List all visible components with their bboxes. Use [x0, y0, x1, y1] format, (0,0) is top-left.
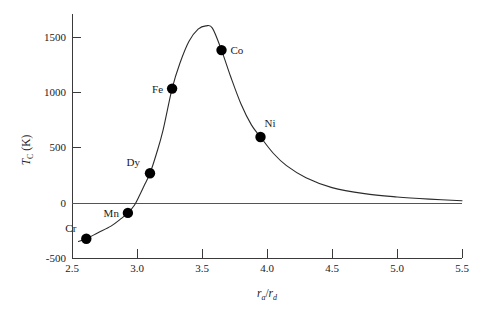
marker-ni — [255, 132, 265, 142]
x-tick-label-3-5: 3.5 — [195, 262, 209, 274]
x-tick-label-5-5: 5.5 — [455, 262, 469, 274]
axis-frame — [72, 14, 462, 258]
point-label-ni: Ni — [265, 117, 276, 129]
x-tick-label-3-0: 3.0 — [130, 262, 144, 274]
marker-co — [216, 45, 226, 55]
point-label-fe: Fe — [152, 83, 163, 95]
y-axis-title: TC (K) — [20, 135, 35, 166]
data-point-ni: Ni — [255, 117, 275, 142]
y-axis-title-unit: (K) — [20, 135, 33, 154]
data-point-dy: Dy — [127, 156, 156, 178]
point-label-cr: Cr — [65, 222, 76, 234]
marker-dy — [145, 168, 155, 178]
y-tick-label-1000: 1000 — [44, 86, 67, 98]
x-axis-title: ra/rd — [257, 287, 278, 302]
marker-fe — [167, 83, 177, 93]
marker-mn — [123, 208, 133, 218]
svg-text:TC (K): TC (K) — [20, 135, 35, 166]
data-point-co: Co — [216, 44, 244, 56]
point-label-co: Co — [231, 44, 244, 56]
data-point-cr: Cr — [65, 222, 91, 244]
data-points-layer: CrMnDyFeCoNi — [65, 44, 275, 244]
bethe-slater-chart: 1500 1000 500 0 -500 2.5 3.0 3.5 4.0 4.5… — [0, 0, 498, 318]
x-tick-marks — [72, 249, 462, 258]
point-label-dy: Dy — [127, 156, 141, 168]
bethe-slater-curve — [79, 25, 463, 241]
marker-cr — [81, 234, 91, 244]
data-point-mn: Mn — [104, 207, 133, 219]
figure-container: 1500 1000 500 0 -500 2.5 3.0 3.5 4.0 4.5… — [0, 0, 498, 318]
y-tick-label-1500: 1500 — [44, 31, 67, 43]
x-tick-label-4-0: 4.0 — [260, 262, 274, 274]
x-axis-title-den-sub: d — [273, 293, 278, 302]
x-tick-label-4-5: 4.5 — [325, 262, 339, 274]
x-tick-label-5-0: 5.0 — [390, 262, 404, 274]
x-tick-label-2-5: 2.5 — [65, 262, 79, 274]
point-label-mn: Mn — [104, 207, 120, 219]
data-point-fe: Fe — [152, 83, 177, 95]
y-tick-label-0: 0 — [61, 197, 67, 209]
y-tick-label-500: 500 — [50, 141, 67, 153]
y-tick-label-minus500: -500 — [46, 252, 67, 264]
